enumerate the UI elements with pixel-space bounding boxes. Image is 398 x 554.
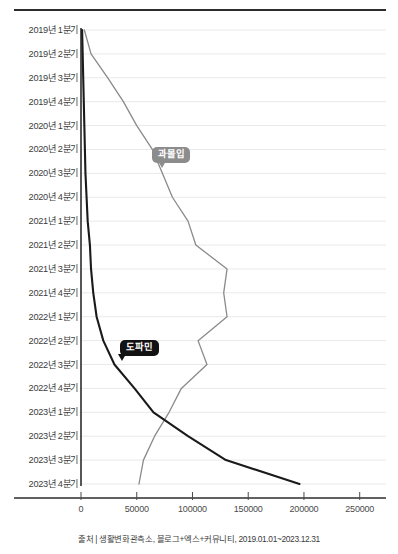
- data-series-group: [82, 30, 299, 484]
- y-axis-label: 2019년 1분기: [2, 25, 78, 35]
- x-axis-tick-label: 150000: [234, 504, 263, 514]
- y-axis-labels: 2019년 1분기2019년 2분기2019년 3분기2019년 4분기2020…: [0, 0, 78, 554]
- y-axis-label: 2023년 2분기: [2, 431, 78, 441]
- y-axis-label: 2022년 1분기: [2, 312, 78, 322]
- y-axis-label: 2021년 2분기: [2, 240, 78, 250]
- series-line-dopamine: [82, 30, 299, 484]
- y-axis-label: 2020년 4분기: [2, 192, 78, 202]
- y-axis-label: 2023년 1분기: [2, 407, 78, 417]
- x-axis-tick-label: 100000: [178, 504, 207, 514]
- chart-container: 2019년 1분기2019년 2분기2019년 3분기2019년 4분기2020…: [0, 0, 398, 554]
- series-line-gwamorip: [84, 30, 227, 484]
- x-axis-tick-label: 0: [79, 504, 84, 514]
- y-axis-label: 2019년 4분기: [2, 97, 78, 107]
- y-axis-label: 2021년 4분기: [2, 288, 78, 298]
- y-axis-label: 2021년 1분기: [2, 216, 78, 226]
- x-axis-tick-label: 250000: [345, 504, 374, 514]
- x-axis-tick-label: 200000: [290, 504, 319, 514]
- y-axis-label: 2022년 3분기: [2, 360, 78, 370]
- y-axis-label: 2022년 2분기: [2, 336, 78, 346]
- gridlines-group: [81, 30, 386, 484]
- x-axis-tick-label: 50000: [125, 504, 149, 514]
- chart-page: 2019년 1분기2019년 2분기2019년 3분기2019년 4분기2020…: [0, 0, 398, 554]
- y-axis-label: 2020년 3분기: [2, 168, 78, 178]
- y-axis-label: 2019년 3분기: [2, 73, 78, 83]
- callout-tail: [118, 354, 126, 361]
- source-caption: 출처 | 생활변화관측소, 블로그+엑스+커뮤니티, 2019.01.01~20…: [0, 532, 398, 544]
- y-axis-label: 2020년 1분기: [2, 121, 78, 131]
- y-axis-label: 2023년 3분기: [2, 455, 78, 465]
- y-axis-label: 2019년 2분기: [2, 49, 78, 59]
- y-axis-label: 2023년 4분기: [2, 479, 78, 489]
- callout-tail: [158, 161, 166, 168]
- y-axis-label: 2020년 2분기: [2, 144, 78, 154]
- y-axis-label: 2022년 4분기: [2, 383, 78, 393]
- y-axis-label: 2021년 3분기: [2, 264, 78, 274]
